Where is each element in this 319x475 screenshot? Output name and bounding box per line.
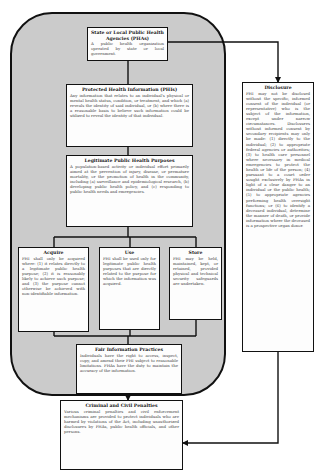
node-body: Individuals have the right to access, in…: [80, 353, 178, 373]
node-phas: State or Local Public Health Agencies (P…: [87, 27, 168, 61]
node-phi: Protected Health Information (PHIs) Any …: [66, 84, 193, 147]
node-body: PHI may be held, maintained, kept, or re…: [173, 256, 218, 287]
node-disclosure: Disclosure PHI may not be disclosed with…: [242, 82, 314, 352]
node-acquire: Acquire PHI shall only be acquired where…: [18, 247, 89, 332]
node-store: Store PHI may be held, maintained, kept,…: [169, 247, 222, 320]
node-use: Use PHI shall be used only for legitimat…: [99, 247, 160, 330]
node-title: Legitimate Public Health Purposes: [70, 158, 189, 164]
node-body: PHI shall be used only for legitimate pu…: [103, 256, 156, 287]
node-fair-information-practices: Fair Information Practices Individuals h…: [76, 344, 182, 394]
node-title: State or Local Public Health Agencies (P…: [91, 30, 164, 41]
node-legitimate-purposes: Legitimate Public Health Purposes A popu…: [66, 155, 193, 227]
node-body: Various criminal penalties and civil enf…: [64, 409, 179, 434]
node-title: Protected Health Information (PHIs): [70, 87, 189, 93]
node-body: PHI may not be disclosed without the spe…: [246, 91, 310, 229]
node-body: PHI shall only be acquired where: (1) it…: [22, 256, 85, 297]
diagram-canvas: State or Local Public Health Agencies (P…: [0, 0, 319, 475]
node-body: A public health organization operated by…: [91, 41, 164, 56]
node-body: A population-based activity or individua…: [70, 164, 189, 195]
node-criminal-civil-penalties: Criminal and Civil Penalties Various cri…: [60, 400, 183, 470]
node-body: Any information that relates to an indiv…: [70, 93, 189, 118]
